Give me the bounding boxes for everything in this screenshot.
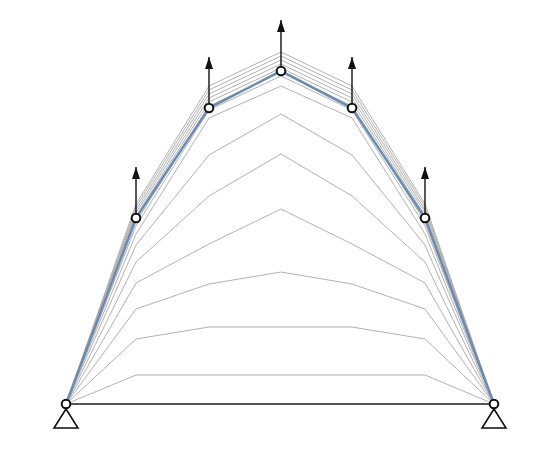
node-circle-icon — [132, 214, 141, 223]
arrowhead-icon — [205, 57, 213, 69]
iteration-curve-7 — [66, 86, 494, 404]
iteration-curve-6 — [66, 114, 494, 404]
iteration-curve-1 — [66, 375, 494, 404]
node-circle-icon — [348, 104, 357, 113]
node-circle-icon — [421, 214, 430, 223]
iteration-curve-2 — [66, 327, 494, 404]
arch-form-finding-diagram — [0, 0, 536, 453]
iteration-curve-5 — [66, 154, 494, 404]
diagram-canvas — [0, 0, 536, 453]
node-circle-icon — [205, 104, 214, 113]
arrowhead-icon — [277, 20, 285, 32]
iteration-curve-8 — [66, 76, 494, 404]
left-support-triangle-icon — [54, 409, 78, 428]
arrowhead-icon — [421, 167, 429, 179]
arrowhead-icon — [348, 57, 356, 69]
right-support-triangle-icon — [482, 409, 506, 428]
arrowhead-icon — [132, 167, 140, 179]
supports — [54, 409, 506, 428]
node-circle-icon — [277, 67, 286, 76]
load-arrows — [132, 20, 429, 213]
node-circle-icon — [490, 400, 499, 409]
node-circle-icon — [62, 400, 71, 409]
